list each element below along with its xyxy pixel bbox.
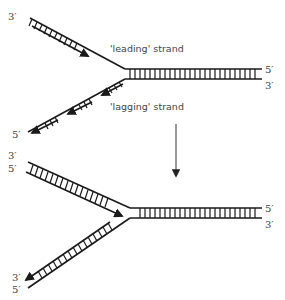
bottom-duplex-3prime-label: 3′ — [265, 219, 274, 230]
bottom-replication-fork — [26, 162, 262, 288]
dna-replication-diagram: 3′ 'leading' strand 5′ 3′ 'lagging' stra… — [0, 0, 285, 300]
upper-arm-5prime-label: 5′ — [8, 163, 17, 174]
okazaki-fragment-2 — [68, 99, 92, 114]
bottom-parental-duplex — [130, 208, 262, 218]
top-replication-fork — [28, 18, 262, 133]
lower-arm-3prime-label: 3′ — [12, 272, 21, 283]
leading-strand-label: 'leading' strand — [110, 43, 184, 54]
top-duplex-3prime-label: 3′ — [265, 80, 274, 91]
top-duplex-5prime-label: 5′ — [265, 64, 274, 75]
lagging-strand-label: 'lagging' strand — [110, 101, 184, 112]
bottom-duplex-5prime-label: 5′ — [265, 203, 274, 214]
upper-arm-3prime-label: 3′ — [8, 150, 17, 161]
bottom-lower-arm — [26, 218, 130, 288]
okazaki-fragment-3 — [32, 117, 58, 133]
lagging-arm-end-label: 5′ — [12, 129, 21, 140]
bottom-upper-arm — [26, 162, 130, 216]
lower-arm-5prime-label: 5′ — [12, 284, 21, 295]
leading-arm-end-label: 3′ — [8, 11, 17, 22]
top-parental-duplex — [125, 69, 262, 79]
